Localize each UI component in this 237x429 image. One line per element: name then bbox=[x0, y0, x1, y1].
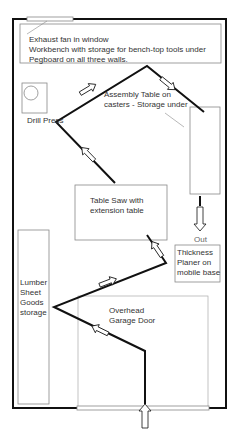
out-label: Out bbox=[194, 235, 207, 245]
drill-press-label: Drill Press bbox=[27, 116, 63, 126]
workbench-label-line1: Exhaust fan in window bbox=[29, 35, 109, 45]
table-saw-label-line2: extension table bbox=[90, 206, 144, 216]
assembly-label-line1: Assembly Table on bbox=[104, 90, 171, 100]
lumber-label-line2: Sheet bbox=[20, 288, 41, 298]
garage-door-label-line2: Garage Door bbox=[109, 316, 155, 326]
planer-label-line1: Thickness bbox=[177, 248, 213, 258]
workflow-path bbox=[54, 66, 204, 404]
planer-label-line2: Planer on bbox=[177, 258, 211, 268]
window-leader-line bbox=[27, 21, 47, 34]
lumber-label-line3: Goods bbox=[20, 298, 44, 308]
window bbox=[27, 17, 73, 21]
arrow-up-left-icon bbox=[90, 322, 110, 338]
assembly-table bbox=[190, 107, 220, 194]
arrow-up-right-icon bbox=[78, 81, 98, 98]
drill-press-icon bbox=[24, 86, 38, 100]
lumber-label-line1: Lumber bbox=[20, 278, 47, 288]
garage-door-label-line1: Overhead bbox=[109, 306, 144, 316]
lumber-label-line4: storage bbox=[20, 308, 47, 318]
table-saw-label-line1: Table Saw with bbox=[90, 196, 143, 206]
assembly-label-line2: casters - Storage under bbox=[104, 100, 188, 110]
exit-arrow-icon bbox=[194, 207, 206, 231]
workbench-label-line2: Workbench with storage for bench-top too… bbox=[29, 45, 206, 55]
planer-label-line3: mobile base bbox=[177, 268, 220, 278]
workbench-label-line3: Pegboard on all three walls. bbox=[29, 55, 128, 65]
assembly-leader-line bbox=[165, 113, 184, 127]
